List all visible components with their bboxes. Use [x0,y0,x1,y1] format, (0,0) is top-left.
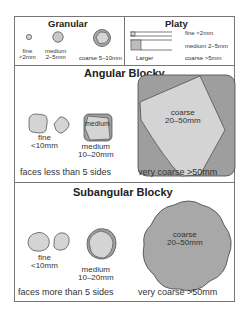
granular-fine-icon [26,34,31,39]
subangular-fine-right-icon [54,233,69,250]
platy-title: Platy [165,18,188,29]
granular-medium-label: medium 2–5mm [45,48,66,61]
platy-larger-label: Larger [136,55,153,61]
platy-coarse-label: coarse >5mm [185,55,222,61]
angular-fine-label: fine <10mm [31,134,58,151]
granular-title: Granular [48,18,88,29]
subangular-coarse-label: coarse 20–50mm [167,231,203,248]
subangular-very-coarse-label: very coarse >50mm [138,288,217,297]
angular-coarse-label: coarse 20–50mm [165,109,201,126]
divider-top [14,65,235,66]
subangular-faces-note: faces more than 5 sides [18,288,114,297]
angular-very-coarse-label: very coarse >50mm [138,168,217,177]
platy-medium-label: medium 2–5mm [185,43,228,49]
angular-faces-note: faces less than 5 sides [20,168,111,177]
angular-fine-square-icon [29,114,47,133]
angular-fine-diamond-icon [54,117,69,133]
angular-medium-label: medium 10–20mm [78,143,114,160]
subangular-fine-label: fine <10mm [31,254,58,271]
platy-fine-label: fine <2mm [185,30,213,36]
platy-fine-icon [131,32,135,36]
granular-coarse-label: coarse 5–10mm [79,55,122,61]
subangular-medium-label: medium 10–20mm [78,266,114,283]
platy-medium-icon [131,40,141,50]
granular-fine-label: fine <2mm [19,48,36,61]
angular-medium-inner-label: medium [85,120,110,127]
angular-blocky-shapes [14,80,234,180]
subangular-fine-left-icon [28,232,49,251]
subangular-medium-inner-icon [89,231,113,258]
granular-medium-icon [53,32,63,42]
divider-middle [14,182,235,183]
